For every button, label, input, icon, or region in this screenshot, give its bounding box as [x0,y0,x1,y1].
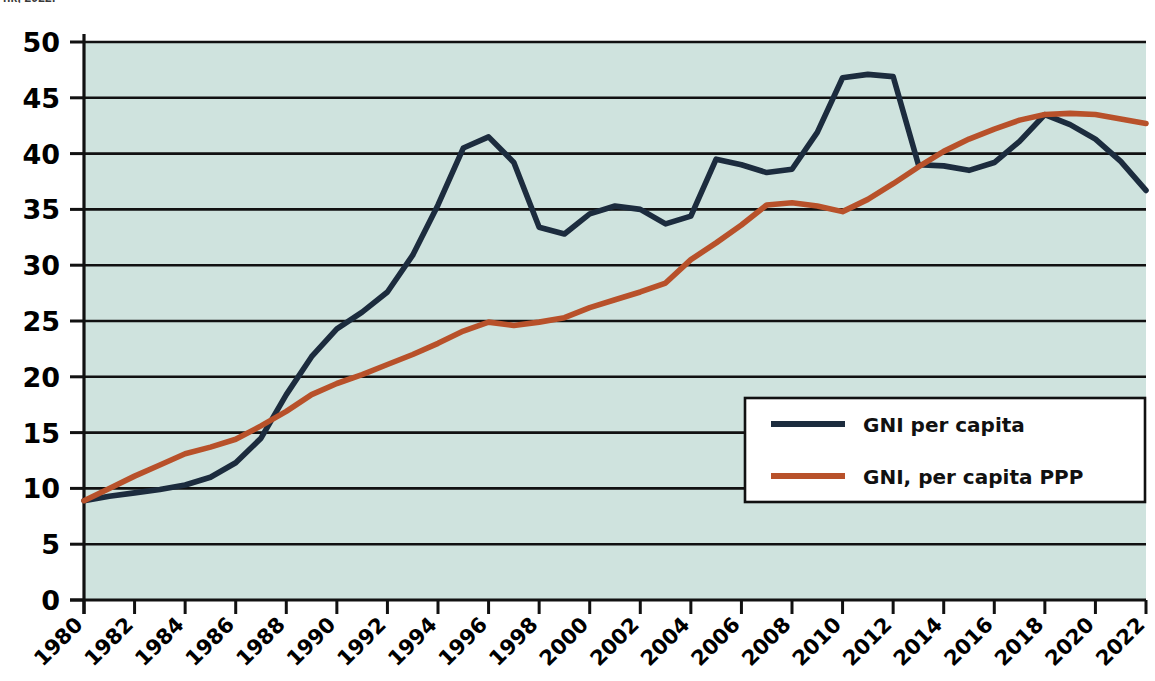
x-tick-label: 2004 [636,613,694,671]
x-tick-label: 2012 [838,613,896,671]
x-tick-label: 1984 [130,613,188,671]
x-tick-label: 2020 [1041,613,1099,671]
chart-legend[interactable]: GNI per capitaGNI, per capita PPP [745,398,1145,502]
x-tick-label: 1998 [484,613,542,671]
y-tick-label: 0 [41,585,60,616]
x-tick-label: 2014 [889,613,947,671]
y-axis-tick-labels: 05101520253035404550 [22,27,60,616]
x-tick-label: 1988 [232,613,290,671]
x-tick-label: 2022 [1091,613,1149,671]
x-tick-label: 1982 [80,613,138,671]
x-tick-label: 1980 [29,613,87,671]
y-tick-label: 10 [22,473,60,504]
x-tick-label: 1996 [434,613,492,671]
x-tick-label: 2016 [940,613,998,671]
y-tick-label: 15 [22,418,60,449]
x-tick-label: 2006 [687,613,745,671]
legend-label-2: GNI, per capita PPP [863,465,1083,489]
x-tick-label: 2002 [586,613,644,671]
y-tick-label: 25 [22,306,60,337]
y-tick-label: 50 [22,27,60,58]
x-tick-label: 1994 [383,613,441,671]
x-tick-label: 2000 [535,613,593,671]
legend-label-1: GNI per capita [863,413,1025,437]
x-tick-label: 2008 [737,613,795,671]
x-tick-label: 1990 [282,613,340,671]
y-tick-label: 30 [22,250,60,281]
y-tick-label: 20 [22,362,60,393]
chart-figure: nk, 2022. 05101520253035404550 198019821… [0,0,1155,681]
line-chart: 05101520253035404550 1980198219841986198… [0,0,1155,681]
x-tick-label: 2018 [990,613,1048,671]
x-tick-label: 1992 [333,613,391,671]
y-tick-label: 45 [22,83,60,114]
x-tick-label: 2010 [788,613,846,671]
x-tick-label: 1986 [181,613,239,671]
x-axis-tick-labels: 1980198219841986198819901992199419961998… [29,613,1149,671]
y-tick-label: 40 [22,139,60,170]
y-tick-label: 35 [22,194,60,225]
y-tick-label: 5 [41,529,60,560]
